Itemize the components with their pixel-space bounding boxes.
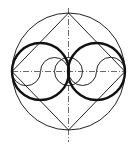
diagram-svg [0, 0, 134, 147]
geometric-construction-diagram [0, 0, 134, 147]
